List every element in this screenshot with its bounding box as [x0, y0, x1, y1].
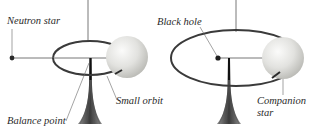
neutron-star-dot	[10, 56, 15, 61]
binary-balance-diagram: Neutron star Small orbit Balance point B…	[0, 0, 317, 134]
label-companion-star-line2: star	[257, 107, 273, 119]
label-small-orbit: Small orbit	[116, 95, 163, 107]
label-neutron-star: Neutron star	[7, 15, 60, 27]
label-black-hole: Black hole	[157, 16, 202, 28]
black-hole-dot	[215, 55, 220, 60]
label-balance-point: Balance point	[7, 115, 66, 127]
companion-sphere-left	[106, 36, 148, 78]
companion-sphere-right	[262, 37, 304, 79]
label-companion-star-line1: Companion	[257, 95, 306, 107]
balance-stand-right	[217, 58, 241, 124]
balance-stand	[78, 58, 102, 124]
